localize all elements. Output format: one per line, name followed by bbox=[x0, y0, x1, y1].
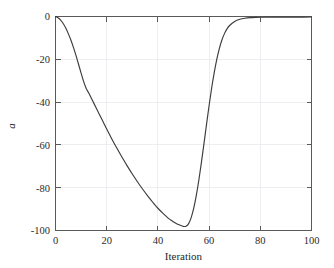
y-tick-label-m80: -80 bbox=[36, 183, 50, 194]
data-line-a bbox=[56, 17, 312, 227]
y-axis-title: a bbox=[5, 123, 17, 129]
x-tick-label-100: 100 bbox=[304, 235, 320, 246]
x-tick-label-80: 80 bbox=[255, 235, 266, 246]
gridlines bbox=[56, 17, 312, 231]
chart-figure: 0 -20 -40 -60 -80 -100 0 20 40 60 80 100… bbox=[0, 0, 334, 268]
x-tick-label-20: 20 bbox=[101, 235, 112, 246]
y-tick-label-m60: -60 bbox=[36, 140, 50, 151]
plot-frame bbox=[56, 17, 312, 231]
x-axis-title: Iteration bbox=[165, 250, 203, 262]
x-tick-label-40: 40 bbox=[153, 235, 164, 246]
y-tick-labels: 0 -20 -40 -60 -80 -100 bbox=[31, 11, 50, 236]
x-tick-labels: 0 20 40 60 80 100 bbox=[53, 235, 320, 246]
x-tick-label-60: 60 bbox=[204, 235, 215, 246]
line-chart: 0 -20 -40 -60 -80 -100 0 20 40 60 80 100… bbox=[0, 0, 334, 268]
y-tick-label-m20: -20 bbox=[36, 54, 50, 65]
y-axis-ticks bbox=[56, 17, 312, 231]
data-series-group bbox=[56, 17, 312, 227]
x-tick-label-0: 0 bbox=[53, 235, 58, 246]
x-axis-ticks bbox=[56, 17, 312, 231]
y-tick-label-0: 0 bbox=[45, 11, 50, 22]
y-tick-label-m100: -100 bbox=[31, 225, 50, 236]
y-tick-label-m40: -40 bbox=[36, 97, 50, 108]
